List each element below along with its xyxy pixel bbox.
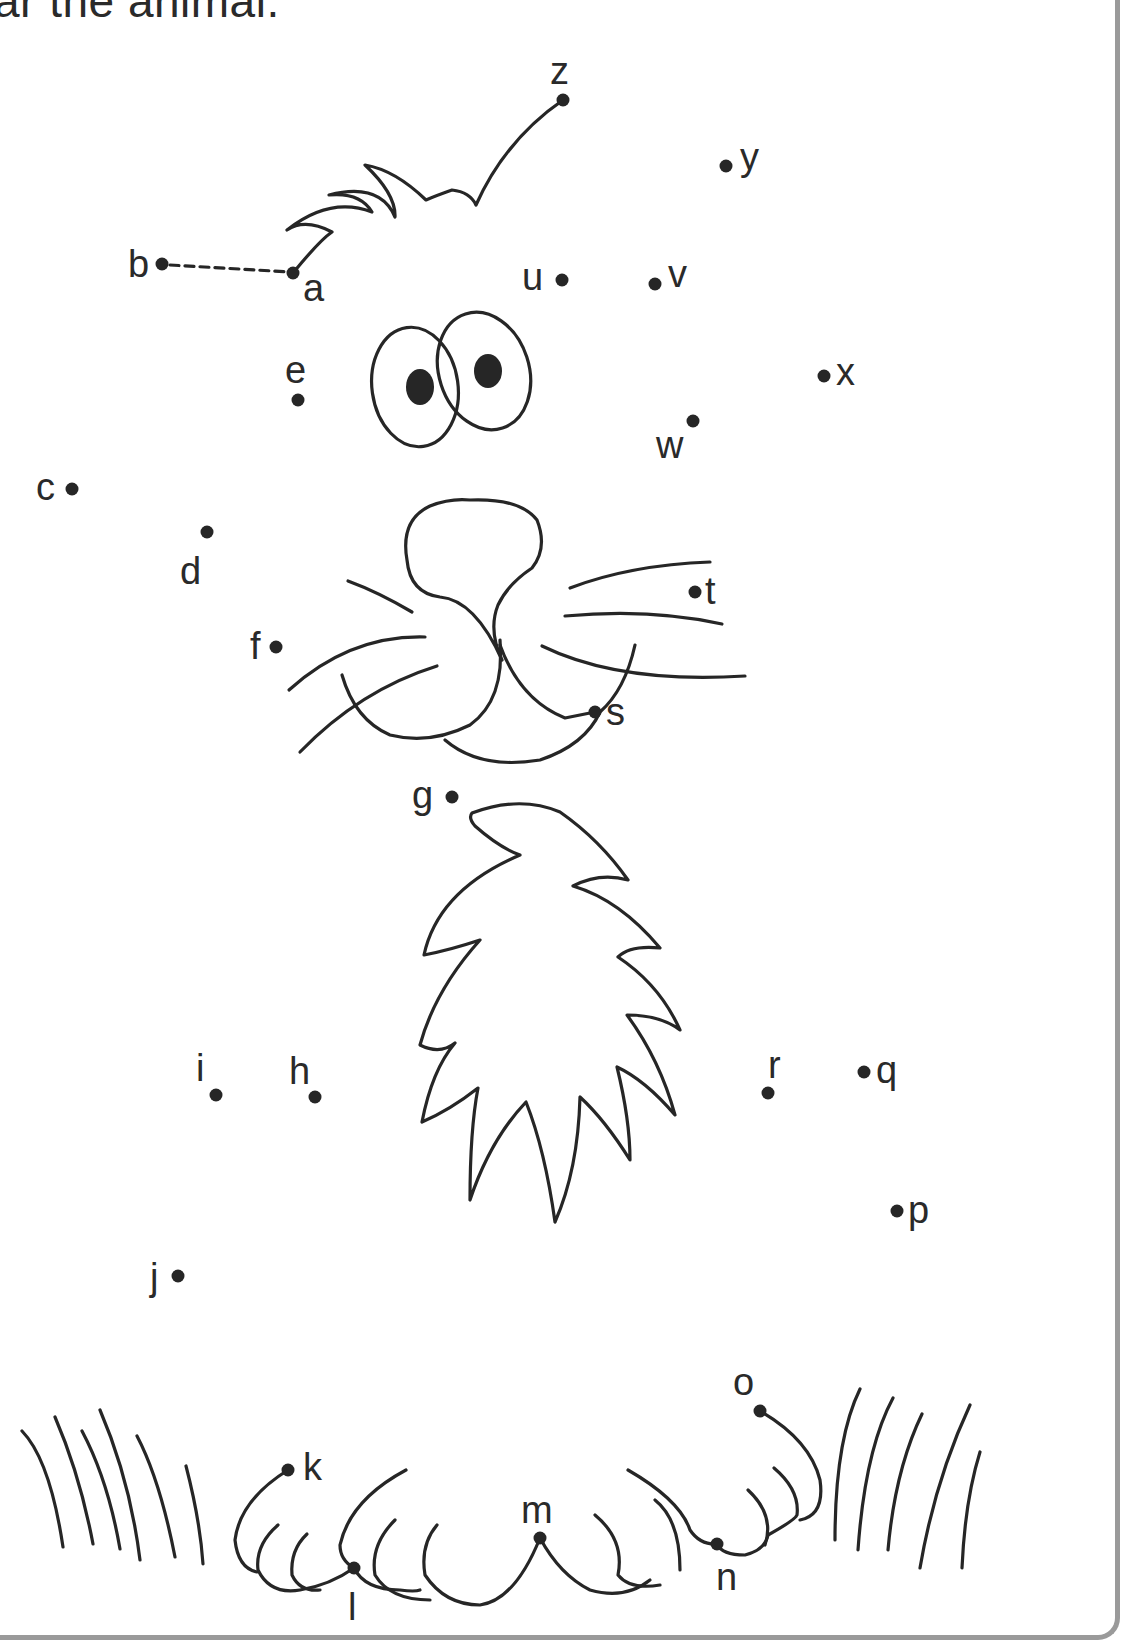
dot-o[interactable]: o xyxy=(733,1361,767,1418)
dot-k[interactable]: k xyxy=(282,1446,324,1488)
dot-m[interactable]: m xyxy=(521,1489,553,1545)
dot-x[interactable]: x xyxy=(818,351,856,393)
grass-left xyxy=(22,1410,203,1564)
label-r: r xyxy=(768,1044,781,1086)
dot-r[interactable]: r xyxy=(762,1044,782,1100)
label-t: t xyxy=(705,570,716,612)
dot-d[interactable]: d xyxy=(180,526,214,593)
label-a: a xyxy=(303,267,325,309)
left-pupil xyxy=(406,369,434,405)
label-f: f xyxy=(250,625,261,667)
right-pupil xyxy=(474,354,502,388)
label-g: g xyxy=(412,774,433,816)
dot-n[interactable]: n xyxy=(711,1538,738,1599)
dot-c[interactable]: c xyxy=(36,466,79,508)
eyes xyxy=(364,300,545,452)
dot-y[interactable]: y xyxy=(720,136,760,178)
guide-dashed-line xyxy=(170,265,290,272)
label-h: h xyxy=(289,1050,310,1092)
label-y: y xyxy=(740,136,759,178)
label-v: v xyxy=(668,253,687,295)
label-z: z xyxy=(550,50,569,92)
label-d: d xyxy=(180,550,201,592)
dot-t[interactable]: t xyxy=(689,570,717,612)
dot-e[interactable]: e xyxy=(285,349,306,407)
label-m: m xyxy=(521,1489,553,1531)
grass-right xyxy=(835,1389,980,1568)
dot-v[interactable]: v xyxy=(649,253,688,295)
dot-f[interactable]: f xyxy=(250,625,283,667)
dot-q[interactable]: q xyxy=(858,1049,898,1091)
head-tuft xyxy=(287,100,563,273)
dot-to-dot-canvas: a b c d e f g h i j k l m n o p q r s t … xyxy=(0,0,1133,1644)
label-c: c xyxy=(36,466,55,508)
dot-z[interactable]: z xyxy=(550,50,570,107)
whiskers xyxy=(289,562,745,752)
dot-p[interactable]: p xyxy=(891,1189,930,1231)
label-l: l xyxy=(348,1586,356,1628)
label-w: w xyxy=(655,424,684,466)
dot-u[interactable]: u xyxy=(522,256,569,298)
dot-a[interactable]: a xyxy=(287,267,326,310)
chest-fur xyxy=(420,804,680,1222)
dot-j[interactable]: j xyxy=(149,1256,185,1298)
label-o: o xyxy=(733,1361,754,1403)
dot-w[interactable]: w xyxy=(655,415,700,467)
label-e: e xyxy=(285,349,306,391)
label-j: j xyxy=(149,1256,158,1298)
label-q: q xyxy=(876,1049,897,1091)
dot-g[interactable]: g xyxy=(412,774,459,816)
dot-b[interactable]: b xyxy=(128,243,169,285)
dot-h[interactable]: h xyxy=(289,1050,322,1104)
dot-l[interactable]: l xyxy=(348,1562,361,1629)
label-u: u xyxy=(522,256,543,298)
dot-s[interactable]: s xyxy=(589,691,626,733)
label-x: x xyxy=(836,351,855,393)
mouth xyxy=(342,640,635,763)
label-i: i xyxy=(196,1047,204,1089)
label-b: b xyxy=(128,243,149,285)
label-n: n xyxy=(716,1556,737,1598)
dot-i[interactable]: i xyxy=(196,1047,223,1102)
label-p: p xyxy=(908,1189,929,1231)
label-k: k xyxy=(303,1446,323,1488)
label-s: s xyxy=(606,691,625,733)
